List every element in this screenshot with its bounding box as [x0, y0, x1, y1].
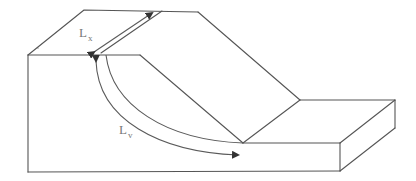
label-lv: L v: [119, 122, 133, 140]
label-lx: L x: [79, 25, 93, 43]
svg-text:L: L: [79, 25, 87, 40]
svg-text:L: L: [119, 122, 127, 137]
svg-text:v: v: [128, 130, 133, 140]
svg-text:x: x: [88, 33, 93, 43]
lx-arrow: [94, 13, 152, 52]
upper-block: [28, 10, 198, 172]
slope-face: [140, 12, 300, 143]
lower-platform: [28, 100, 395, 172]
slope-block-diagram: L x L v: [0, 0, 416, 181]
